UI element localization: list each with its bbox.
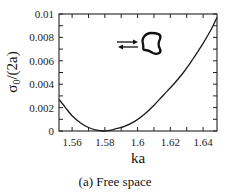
chart-svg: 1.561.581.61.621.64 00.0020.0040.0060.00… <box>0 0 230 196</box>
y-tick-label: 0.002 <box>29 102 54 114</box>
x-tick-label: 1.56 <box>62 136 82 148</box>
y-tick-label: 0.01 <box>35 8 54 20</box>
x-tick-label: 1.58 <box>95 136 115 148</box>
inset-scatterer-diagram <box>117 33 160 54</box>
x-tick-label: 1.62 <box>161 136 180 148</box>
y-tick-labels: 00.0020.0040.0060.0080.01 <box>29 8 54 137</box>
rounded-triangle-scatterer-icon <box>143 33 161 54</box>
y-tick-label: 0 <box>49 125 55 137</box>
y-tick-label: 0.004 <box>29 78 54 90</box>
data-line <box>59 18 217 132</box>
x-tick-label: 1.6 <box>131 136 145 148</box>
y-tick-label: 0.008 <box>29 31 54 43</box>
x-tick-label: 1.64 <box>193 136 213 148</box>
axes <box>59 14 217 131</box>
x-axis-label: ka <box>131 150 146 166</box>
tick-marks <box>59 14 217 131</box>
x-tick-labels: 1.561.581.61.621.64 <box>62 136 213 148</box>
plot-frame <box>59 14 217 131</box>
figure-caption: (a) Free space <box>0 174 230 190</box>
incident-arrow-icon <box>117 40 138 45</box>
y-tick-label: 0.006 <box>29 55 54 67</box>
reflected-arrow-icon <box>118 45 138 50</box>
y-axis-label: σ0/(2a) <box>4 51 22 92</box>
